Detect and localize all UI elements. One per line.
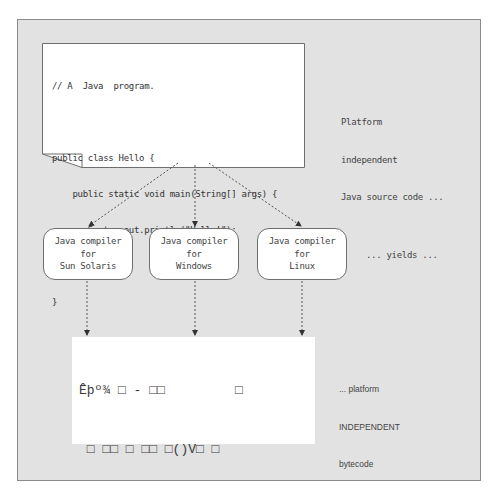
compiler-box-solaris: Java compiler for Sun Solaris [43,228,133,280]
bytecode-note: ... platform INDEPENDENT bytecode [339,358,400,483]
note-line: bytecode [339,458,400,471]
bytecode-line: □ □□ □ □□ □()V□ □ [79,440,258,460]
note-line: Java source code ... [341,191,443,204]
note-line: independent [341,154,443,167]
compiler-label: Java compiler [161,235,228,248]
bytecode-line: Êþº¾ □ - □□ □ [79,381,258,401]
compiler-label: Sun Solaris [60,260,116,273]
compiler-box-windows: Java compiler for Windows [149,228,239,280]
code-line: public static void main(String[] args) { [52,188,277,200]
source-code-note: Platform independent Java source code ..… [341,91,443,216]
compiler-label: for [294,248,309,261]
code-line: public class Hello { [52,152,277,164]
note-line: ... platform [339,383,400,396]
source-code-document: // A Java program. public class Hello { … [42,43,305,168]
yields-note: ... yields ... [366,249,438,262]
code-line [52,116,277,128]
compiler-label: Windows [176,260,212,273]
code-line: } [52,296,277,308]
compiler-label: Java compiler [55,235,122,248]
source-code-text: // A Java program. public class Hello { … [52,56,277,332]
compiler-label: Java compiler [269,235,336,248]
code-line: // A Java program. [52,80,277,92]
bytecode-text: Êþº¾ □ - □□ □ □ □□ □ □□ □()V□ □ ([Ljava/… [79,342,258,499]
compiler-label: Linux [289,260,315,273]
compiler-label: for [80,248,95,261]
note-line: Platform [341,116,443,129]
compiler-box-linux: Java compiler for Linux [257,228,347,280]
compiler-label: for [186,248,201,261]
bytecode-box: Êþº¾ □ - □□ □ □ □□ □ □□ □()V□ □ ([Ljava/… [72,337,315,444]
note-line: INDEPENDENT [339,421,400,434]
